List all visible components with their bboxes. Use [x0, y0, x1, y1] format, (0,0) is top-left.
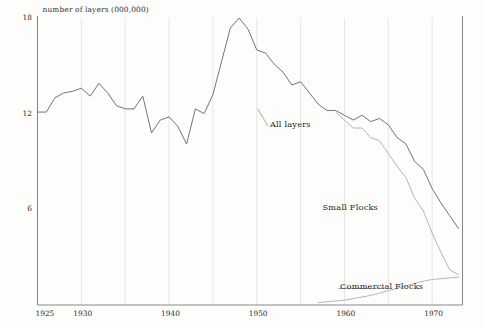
x-tick-1930: 1930: [73, 309, 92, 318]
x-tick-1960: 1960: [336, 309, 355, 318]
leader-line-0: [258, 109, 268, 126]
x-tick-1925: 1925: [36, 309, 55, 318]
y-tick-6: 6: [8, 204, 32, 213]
y-axis-title: number of layers (000,000): [43, 5, 149, 14]
axis-lines: [38, 16, 463, 305]
x-tick-1950: 1950: [249, 309, 268, 318]
chart-plot-area: [0, 0, 484, 328]
series-line-all-layers: [38, 18, 459, 228]
x-tick-1940: 1940: [161, 309, 180, 318]
annotation-small-flocks: Small Flocks: [323, 202, 378, 212]
annotation-leader-lines: [258, 109, 383, 289]
chart-figure: number of layers (000,000) 18126 1925193…: [0, 0, 484, 328]
y-tick-12: 12: [8, 109, 32, 118]
vertical-gridlines: [81, 18, 432, 305]
annotation-all-layers: All layers: [270, 119, 311, 129]
series-line-small-flocks: [336, 112, 459, 275]
x-tick-1970: 1970: [424, 309, 443, 318]
y-tick-18: 18: [8, 13, 32, 22]
annotation-commercial-flocks: Commercial Flocks: [340, 281, 423, 291]
data-series-group: [38, 18, 459, 303]
